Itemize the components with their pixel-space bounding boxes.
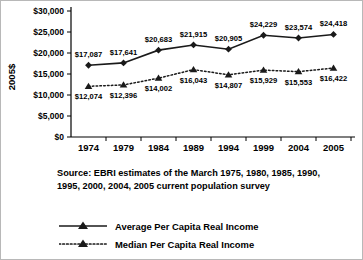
data-point-label: $20,683 (145, 35, 172, 44)
data-point-marker (330, 64, 338, 70)
chart-canvas: $0$5,000$10,000$15,000$20,000$25,000$30,… (1, 1, 363, 159)
x-tick-label: 1974 (78, 142, 100, 153)
data-point-label: $17,641 (110, 48, 138, 57)
data-point-label: $23,574 (285, 23, 313, 32)
y-axis: $0$5,000$10,000$15,000$20,000$25,000$30,… (33, 6, 71, 142)
source-line-2: 1995, 2000, 2004, 2005 current populatio… (57, 180, 357, 193)
y-tick-label: $25,000 (33, 27, 64, 37)
data-point-marker (190, 42, 197, 49)
y-tick-label: $0 (55, 132, 65, 142)
x-tick-label: 2005 (323, 142, 345, 153)
data-point-label: $16,422 (320, 74, 347, 83)
x-tick-label: 1999 (253, 142, 274, 153)
y-axis-title: 2005$ (6, 63, 17, 90)
data-point-marker (120, 60, 127, 67)
data-point-marker (260, 32, 267, 39)
y-tick-label: $5,000 (38, 111, 64, 121)
chart-page: $0$5,000$10,000$15,000$20,000$25,000$30,… (0, 0, 363, 260)
legend-key-solid-triangle-icon (59, 219, 107, 233)
x-tick-label: 1989 (183, 142, 204, 153)
data-point-label: $15,553 (285, 78, 312, 87)
data-point-label: $12,074 (75, 92, 103, 101)
data-point-label: $15,929 (250, 76, 277, 85)
x-tick-label: 1984 (148, 142, 170, 153)
source-note: Source: EBRI estimates of the March 1975… (57, 167, 357, 192)
income-line-chart: $0$5,000$10,000$15,000$20,000$25,000$30,… (1, 1, 363, 159)
y-tick-label: $10,000 (33, 90, 64, 100)
data-point-label: $24,418 (320, 19, 347, 28)
chart-legend: Average Per Capita Real Income Median Pe… (59, 217, 349, 253)
data-point-label: $21,915 (180, 30, 208, 39)
y-tick-label: $30,000 (33, 6, 64, 16)
data-point-label: $12,396 (110, 91, 137, 100)
data-point-label: $17,087 (75, 50, 102, 59)
y-tick-label: $15,000 (33, 69, 64, 79)
x-axis: 19741979198419891994199920042005 (71, 137, 355, 153)
data-point-label: $14,807 (215, 81, 242, 90)
data-point-marker (85, 62, 92, 69)
y-tick-label: $20,000 (33, 48, 64, 58)
legend-item-average: Average Per Capita Real Income (59, 217, 349, 235)
data-point-marker (85, 83, 93, 89)
data-point-marker (295, 35, 302, 42)
legend-label-average: Average Per Capita Real Income (115, 221, 258, 232)
x-tick-label: 1994 (218, 142, 240, 153)
data-point-label: $24,229 (250, 20, 277, 29)
data-point-marker (225, 46, 232, 53)
data-point-marker (330, 31, 337, 38)
data-point-marker (190, 66, 198, 72)
x-tick-label: 1979 (113, 142, 134, 153)
data-point-label: $20,905 (215, 34, 243, 43)
legend-item-median: Median Per Capita Real Income (59, 235, 349, 253)
legend-key-dotted-triangle-icon (59, 237, 107, 251)
data-point-label: $16,043 (180, 76, 207, 85)
x-tick-label: 2004 (288, 142, 310, 153)
legend-label-median: Median Per Capita Real Income (115, 239, 254, 250)
source-line-1: Source: EBRI estimates of the March 1975… (57, 167, 357, 180)
data-point-marker (155, 47, 162, 54)
data-labels-group: $17,087$17,641$20,683$21,915$20,905$24,2… (75, 19, 347, 101)
data-point-label: $14,002 (145, 84, 172, 93)
